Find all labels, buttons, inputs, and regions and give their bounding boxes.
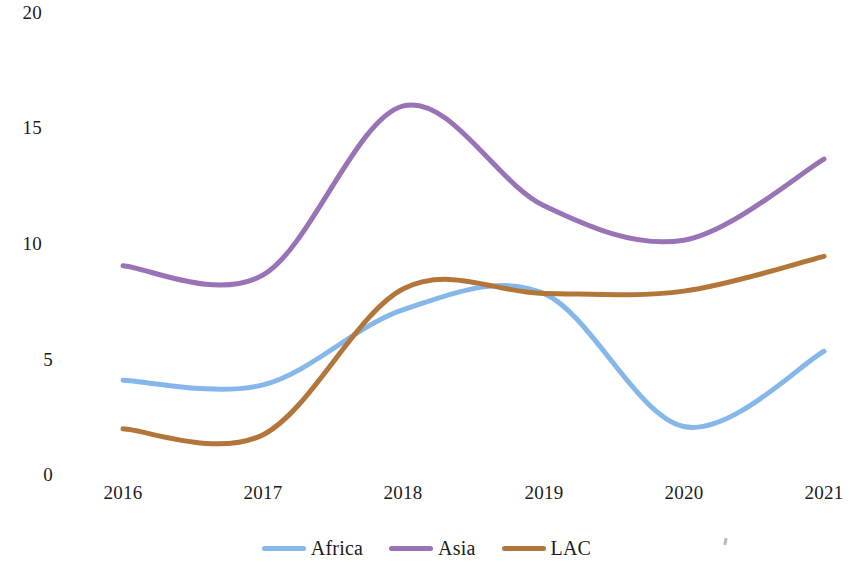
line-chart: 20 15 10 5 0 2016 2017 2018 2019 2020 20… <box>0 0 853 564</box>
x-tick-label-2017: 2017 <box>223 482 303 504</box>
y-tick-label-15: 15 <box>2 117 42 139</box>
legend-label-lac: LAC <box>551 537 592 559</box>
y-tick-label-20: 20 <box>2 2 42 24</box>
legend-item-africa[interactable]: Africa <box>262 537 363 559</box>
legend-label-asia: Asia <box>438 537 475 559</box>
legend-item-asia[interactable]: Asia <box>389 537 475 559</box>
plot-area <box>0 0 853 564</box>
legend-swatch-asia <box>389 546 433 551</box>
series-line-africa <box>123 285 824 427</box>
x-tick-label-2019: 2019 <box>504 482 584 504</box>
x-tick-label-2021: 2021 <box>784 482 853 504</box>
legend-item-lac[interactable]: LAC <box>502 537 592 559</box>
legend-label-africa: Africa <box>311 537 363 559</box>
y-tick-label-10: 10 <box>2 233 42 255</box>
x-tick-label-2016: 2016 <box>83 482 163 504</box>
legend-swatch-africa <box>262 546 306 551</box>
x-tick-label-2020: 2020 <box>644 482 724 504</box>
legend-swatch-lac <box>502 546 546 551</box>
y-tick-label-0: 0 <box>13 464 53 486</box>
x-tick-label-2018: 2018 <box>363 482 443 504</box>
series-line-asia <box>123 105 824 285</box>
y-tick-label-5: 5 <box>13 349 53 371</box>
series-line-lac <box>123 256 824 443</box>
